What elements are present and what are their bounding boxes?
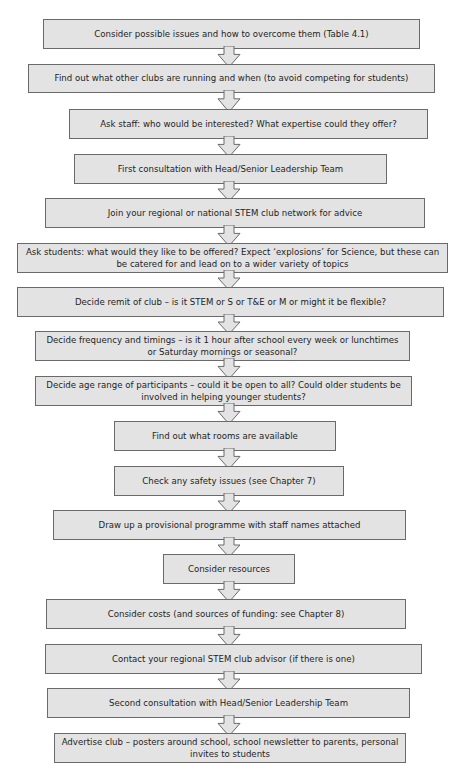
flow-step-16: Second consultation with Head/Senior Lea… [47, 688, 410, 718]
flow-step-13: Consider resources [163, 554, 295, 584]
flow-step-6: Ask students: what would they like to be… [17, 243, 448, 273]
flow-step-17: Advertise club – posters around school, … [54, 733, 406, 763]
flow-step-2: Find out what other clubs are running an… [28, 64, 435, 93]
flow-step-4: First consultation with Head/Senior Lead… [74, 154, 387, 184]
flow-step-10: Find out what rooms are available [114, 421, 336, 451]
flow-step-3: Ask staff: who would be interested? What… [69, 109, 428, 139]
flow-step-9: Decide age range of participants – could… [35, 376, 412, 406]
flow-step-12: Draw up a provisional programme with sta… [53, 510, 406, 540]
flow-step-5: Join your regional or national STEM club… [45, 198, 425, 228]
flow-step-8: Decide frequency and timings – is it 1 h… [35, 331, 410, 361]
flow-step-7: Decide remit of club – is it STEM or S o… [17, 287, 444, 317]
flow-step-11: Check any safety issues (see Chapter 7) [114, 466, 344, 496]
flow-step-15: Contact your regional STEM club advisor … [45, 644, 422, 674]
flow-step-14: Consider costs (and sources of funding: … [46, 599, 406, 629]
flow-step-1: Consider possible issues and how to over… [43, 19, 420, 49]
